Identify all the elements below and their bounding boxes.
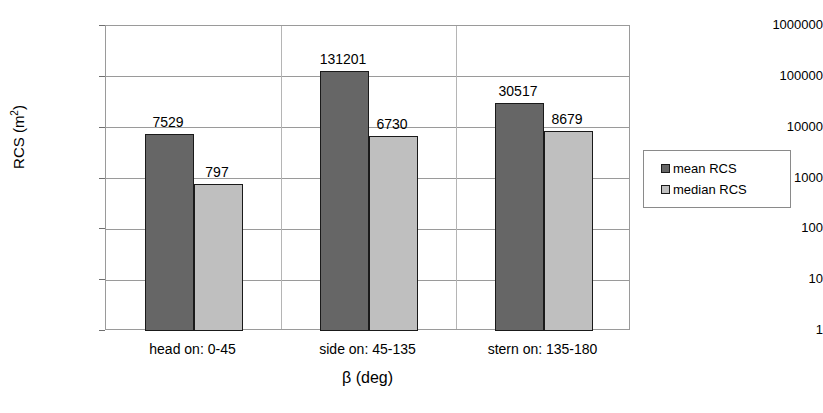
bar-mean-rcs[interactable]: [320, 71, 369, 331]
bar-mean-rcs[interactable]: [495, 103, 544, 331]
bar-value-label: 797: [172, 165, 262, 179]
y-axis-title-base: RCS (m: [10, 116, 27, 169]
category-separator: [456, 26, 457, 329]
x-axis-category-label: head on: 0-45: [105, 341, 280, 357]
bar-value-label: 131201: [298, 52, 388, 66]
y-axis-tick-label: 100000: [727, 69, 823, 82]
x-axis-category-label: stern on: 135-180: [455, 341, 630, 357]
legend: mean RCS median RCS: [643, 150, 791, 208]
y-axis-tick-label: 1000000: [727, 18, 823, 31]
bar-value-label: 8679: [522, 112, 612, 126]
y-axis-tick-label: 100: [727, 221, 823, 234]
y-axis-tick-label: 10000: [727, 120, 823, 133]
bar-value-label: 30517: [473, 84, 563, 98]
y-axis-title: RCS (m2): [9, 57, 27, 217]
y-axis-tick-label: 10: [727, 272, 823, 285]
bar-mean-rcs[interactable]: [145, 134, 194, 331]
x-axis-title: β (deg): [105, 369, 630, 387]
y-axis-tick-label: 1: [727, 323, 823, 336]
legend-entry-mean-rcs[interactable]: mean RCS: [661, 158, 790, 179]
x-axis-category-label: side on: 45-135: [280, 341, 455, 357]
bar-median-rcs[interactable]: [194, 184, 243, 331]
bar-median-rcs[interactable]: [369, 136, 418, 331]
bar-value-label: 6730: [347, 117, 437, 131]
bar-median-rcs[interactable]: [544, 131, 593, 331]
legend-swatch-median-rcs: [661, 185, 670, 194]
legend-label-median-rcs: median RCS: [673, 183, 747, 196]
bar-value-label: 7529: [123, 115, 213, 129]
legend-label-mean-rcs: mean RCS: [673, 162, 737, 175]
y-axis-title-exponent: 2: [9, 110, 20, 116]
category-separator: [281, 26, 282, 329]
rcs-bar-chart: 1000000100000100001000100101 RCS (m2) 75…: [0, 0, 823, 413]
legend-swatch-mean-rcs: [661, 164, 670, 173]
y-axis-tick-mark: [99, 330, 105, 331]
legend-entry-median-rcs[interactable]: median RCS: [661, 179, 790, 200]
y-axis-title-tail: ): [10, 105, 27, 110]
